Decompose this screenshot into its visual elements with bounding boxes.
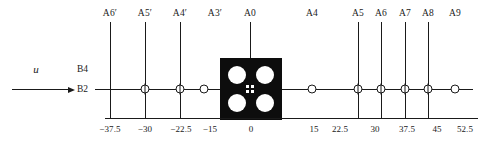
station-node-a5prime[interactable] [141,85,150,94]
scale-tick-label-15: 15 [309,124,318,135]
scale-tick-label--15: −15 [203,124,217,135]
station-label-a5: A5 [352,8,364,19]
station-label-a8: A8 [422,8,434,19]
scale-tick-label-52-5: 52.5 [457,124,473,135]
scale-tick-label-30: 30 [370,124,379,135]
station-node-a9[interactable] [451,85,460,94]
station-stem-a6prime [110,22,111,119]
scale-tick-label-0: 0 [249,124,254,135]
scale-ruler-line [105,118,478,119]
station-label-a0: A0 [244,8,256,19]
station-node-a6[interactable] [377,85,386,94]
block-hole-top-right [256,66,274,84]
block-hole-bottom-left [228,94,246,112]
station-label-a4prime: A4′ [173,8,187,19]
scale-tick-label-45: 45 [432,124,441,135]
main-axis-line [95,89,473,90]
station-stem-a5 [358,22,359,119]
station-node-a4[interactable] [308,85,317,94]
flow-velocity-symbol: u [33,64,39,75]
level-label-b4: B4 [60,64,88,75]
station-node-a4prime[interactable] [176,85,185,94]
scale-tick-label-37-5: 37.5 [399,124,415,135]
diagram-canvas: u B4 B2 A6′ A5′ A4′ A3′ A0 A4 A5 A6 A7 A… [0,0,491,143]
scale-tick-label--37-5: −37.5 [99,124,120,135]
station-label-a6: A6 [375,8,387,19]
station-stem-a4prime [180,22,181,119]
block-hole-bottom-right [256,94,274,112]
station-label-a7: A7 [399,8,411,19]
station-label-a6prime: A6′ [103,8,117,19]
scale-tick-label--30: −30 [138,124,152,135]
station-stem-a8 [428,22,429,119]
scale-tick-label--22-5: −22.5 [170,124,191,135]
station-stem-a5prime [145,22,146,119]
scale-tick-label-22-5: 22.5 [332,124,348,135]
station-node-a3prime[interactable] [200,85,209,94]
block-center-marker [246,85,254,93]
station-label-a4: A4 [306,8,318,19]
level-label-b2: B2 [60,84,88,95]
station-node-a7[interactable] [401,85,410,94]
block-hole-top-left [228,66,246,84]
perforated-block[interactable] [220,58,282,120]
station-label-a5prime: A5′ [138,8,152,19]
station-stem-a7 [405,22,406,119]
block-center-marker-horizontal [246,88,254,90]
station-stem-a6 [381,22,382,119]
station-label-a9: A9 [449,8,461,19]
station-label-a3prime: A3′ [208,8,222,19]
station-node-a5[interactable] [354,85,363,94]
station-node-a8[interactable] [424,85,433,94]
